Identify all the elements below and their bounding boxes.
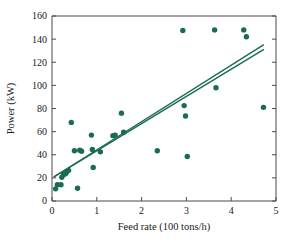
y-tick-label: 160: [32, 10, 47, 21]
y-tick-label: 120: [32, 57, 47, 68]
data-point: [261, 105, 266, 110]
data-point: [90, 147, 95, 152]
y-tick-label: 80: [37, 103, 47, 114]
data-point: [91, 165, 96, 170]
y-tick-label: 20: [37, 172, 47, 183]
y-tick-label: 40: [37, 149, 47, 160]
scatter-plot: 020406080100120140160 012345 Feed rate (…: [0, 0, 294, 242]
data-point: [180, 28, 185, 33]
x-tick-label: 2: [139, 205, 144, 216]
y-tick-label: 140: [32, 34, 47, 45]
data-point: [112, 132, 117, 137]
data-point: [121, 130, 126, 135]
x-tick-label: 5: [274, 205, 279, 216]
x-tick-label: 1: [94, 205, 99, 216]
x-tick-label: 0: [50, 205, 55, 216]
y-tick-label: 0: [42, 195, 47, 206]
y-axis-title: Power (kW): [5, 82, 17, 134]
x-axis-title: Feed rate (100 tons/h): [118, 221, 211, 233]
data-point: [119, 110, 124, 115]
data-point: [212, 27, 217, 32]
data-point: [98, 149, 103, 154]
data-point: [183, 113, 188, 118]
data-point: [75, 186, 80, 191]
data-point: [185, 154, 190, 159]
data-point: [155, 148, 160, 153]
y-tick-label: 100: [32, 80, 47, 91]
data-point: [58, 182, 63, 187]
y-tick-label: 60: [37, 126, 47, 137]
data-point: [72, 148, 77, 153]
data-point: [213, 85, 218, 90]
x-tick-label: 3: [184, 205, 189, 216]
data-point: [181, 103, 186, 108]
chart-figure: 020406080100120140160 012345 Feed rate (…: [0, 0, 294, 242]
data-point: [79, 149, 84, 154]
data-point: [244, 34, 249, 39]
data-point: [89, 132, 94, 137]
data-point: [241, 27, 246, 32]
data-point: [66, 168, 71, 173]
data-point: [69, 120, 74, 125]
x-tick-label: 4: [229, 205, 234, 216]
